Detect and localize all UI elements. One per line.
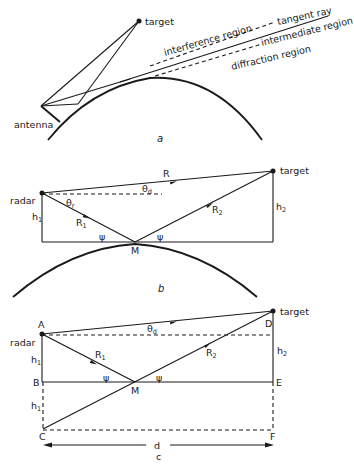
- A-label: A: [38, 319, 45, 330]
- h1-label: h1: [32, 211, 42, 224]
- R1-label: R1: [76, 217, 87, 230]
- radar-geometry-figure: target antenna interference region tange…: [0, 0, 354, 470]
- point-D: [271, 309, 276, 314]
- tangent-ray-from-antenna: [41, 79, 130, 106]
- target-label: target: [145, 16, 174, 27]
- arrow-R1-icon: [83, 214, 90, 219]
- direct-ray: [41, 21, 139, 106]
- target-point: [271, 169, 276, 174]
- point-A: [40, 332, 45, 337]
- antenna-label: antenna: [14, 119, 53, 130]
- E-label: E: [276, 377, 282, 388]
- arrow-direct-icon: [170, 321, 177, 324]
- diffraction-region-label: diffraction region: [230, 43, 312, 72]
- target-point: [137, 19, 142, 24]
- earth-surface-arc: [48, 78, 262, 140]
- panel-b: radar target R θd θr R1 R2 h1 h2 ψ ψ M b: [10, 165, 309, 297]
- panel-a-caption: a: [157, 133, 163, 144]
- ray-R2-CD: [43, 311, 273, 429]
- arrow-R-icon: [170, 181, 177, 184]
- arrow-left-icon: [43, 443, 52, 448]
- panel-c: A B C D E F M radar target θd R1 R2 h1 h…: [10, 306, 309, 462]
- B-label: B: [33, 377, 40, 388]
- interference-region-label: interference region: [163, 22, 254, 58]
- ray-R1: [42, 334, 135, 382]
- target-label: target: [280, 165, 309, 176]
- D-label: D: [265, 318, 272, 329]
- psi-left-label: ψ: [99, 231, 105, 242]
- psi-right-label: ψ: [156, 372, 162, 383]
- theta-d-label: θd: [147, 323, 157, 336]
- M-label: M: [131, 385, 139, 396]
- d-label: d: [154, 440, 160, 451]
- panel-c-caption: c: [156, 451, 161, 462]
- F-label: F: [270, 431, 275, 442]
- h2-label: h2: [277, 345, 287, 358]
- radar-point: [40, 191, 45, 196]
- panel-b-caption: b: [158, 283, 164, 294]
- radar-label: radar: [10, 195, 36, 206]
- direct-ray-AD: [42, 311, 273, 334]
- arrow-right-icon: [265, 443, 274, 448]
- panel-a: target antenna interference region tange…: [14, 5, 354, 144]
- M-label: M: [131, 245, 139, 256]
- radar-label: radar: [10, 337, 36, 348]
- C-label: C: [39, 431, 46, 442]
- h2-label: h2: [276, 201, 286, 214]
- R-label: R: [163, 168, 170, 179]
- h1-top-label: h1: [31, 354, 41, 367]
- target-label: target: [280, 306, 309, 317]
- psi-right-label: ψ: [157, 231, 163, 242]
- R2-label: R2: [212, 204, 223, 217]
- psi-left-label: ψ: [103, 372, 109, 383]
- R2-label: R2: [206, 347, 217, 360]
- R1-label: R1: [95, 349, 106, 362]
- h1-bottom-label: h1: [31, 400, 41, 413]
- direct-ray-R: [42, 171, 273, 193]
